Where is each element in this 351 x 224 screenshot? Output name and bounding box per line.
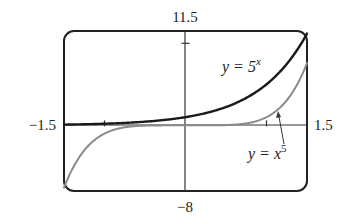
- label-5-pow-x: y = 5x: [220, 55, 261, 76]
- x-min-label: −1.5: [29, 117, 56, 133]
- label-5-pow-x-exp: x: [255, 55, 261, 67]
- arrow-head-icon: [276, 111, 281, 118]
- x-max-label: 1.5: [314, 117, 333, 133]
- label-x-pow-5-base: y = x: [246, 145, 281, 163]
- y-min-label: −8: [177, 199, 193, 215]
- label-5-pow-x-base: y = 5: [220, 58, 256, 76]
- graph-chart: 11.5 −8 −1.5 1.5 y = 5x y = x5: [0, 0, 351, 224]
- annotation-arrow: [279, 114, 285, 144]
- label-x-pow-5: y = x5: [246, 142, 287, 163]
- y-max-label: 11.5: [172, 9, 198, 25]
